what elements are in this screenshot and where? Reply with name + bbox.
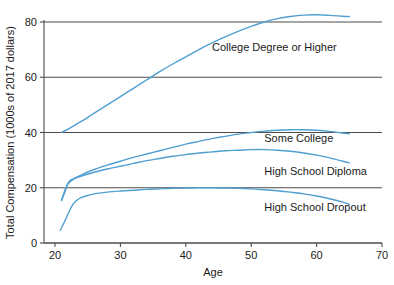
series-label-college-degree-or-higher: College Degree or Higher <box>212 41 337 53</box>
series-label-high-school-diploma: High School Diploma <box>264 165 368 177</box>
series-label-high-school-dropout: High School Dropout <box>264 201 366 213</box>
x-tick-label-40: 40 <box>180 249 192 261</box>
y-tick-label-60: 60 <box>25 71 37 83</box>
chart-canvas: 020406080203040506070AgeTotal Compensati… <box>0 0 394 285</box>
y-tick-label-40: 40 <box>25 127 37 139</box>
y-axis-title: Total Compensation (1000s of 2017 dollar… <box>4 26 16 239</box>
y-tick-label-80: 80 <box>25 16 37 28</box>
x-tick-label-60: 60 <box>310 249 322 261</box>
x-tick-label-70: 70 <box>376 249 388 261</box>
y-tick-label-20: 20 <box>25 182 37 194</box>
compensation-by-education-chart: 020406080203040506070AgeTotal Compensati… <box>0 0 394 285</box>
x-axis-title: Age <box>203 266 223 278</box>
x-tick-label-30: 30 <box>114 249 126 261</box>
x-tick-label-20: 20 <box>49 249 61 261</box>
x-tick-label-50: 50 <box>245 249 257 261</box>
series-label-some-college: Some College <box>264 132 333 144</box>
y-tick-label-0: 0 <box>31 237 37 249</box>
series-line-college-degree-or-higher <box>62 15 350 133</box>
